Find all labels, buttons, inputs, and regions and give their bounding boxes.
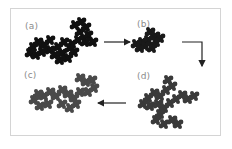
dragon-fractal-a	[25, 17, 99, 65]
dragon-fractal-b	[131, 27, 166, 53]
diagram-canvas	[0, 0, 232, 149]
dragon-fractal-c	[29, 73, 100, 113]
dragon-fractal-d	[138, 75, 200, 129]
arrow-b-to-d	[182, 42, 202, 66]
